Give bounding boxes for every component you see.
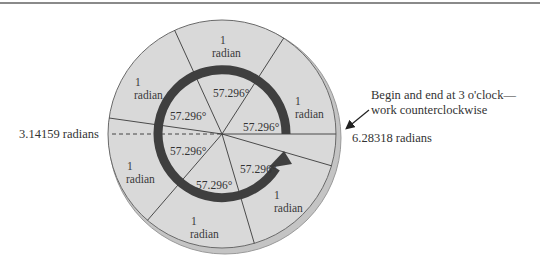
sector-label-number: 1	[135, 76, 141, 88]
degree-label: 57.296°	[213, 87, 250, 99]
note-line-2: work counterclockwise	[371, 103, 488, 117]
degree-label: 57.296°	[196, 179, 233, 191]
note-line-1: Begin and end at 3 o'clock—	[371, 88, 516, 102]
sector-label-unit: radian	[295, 108, 324, 120]
degree-label: 57.296°	[170, 110, 207, 122]
degree-label: 57.296°	[240, 163, 277, 175]
degree-label: 57.296°	[243, 121, 280, 133]
sector-label-unit: radian	[190, 228, 219, 240]
sector-label-number: 1	[274, 189, 280, 201]
sector-label-unit: radian	[134, 89, 163, 101]
radian-diagram: 1 radian 1 radian 1 radian 1 radian 1 ra…	[0, 0, 544, 272]
sector-label-unit: radian	[212, 47, 241, 59]
two-pi-radians-label: 6.28318 radians	[352, 131, 432, 145]
sector-label-unit: radian	[274, 202, 303, 214]
sector-label-number: 1	[127, 160, 133, 172]
sector-label-number: 1	[191, 215, 197, 227]
sector-label-number: 1	[220, 34, 226, 46]
sector-label-number: 1	[295, 95, 301, 107]
degree-label: 57.296°	[170, 145, 207, 157]
pointer-arrow-icon	[347, 110, 369, 128]
pi-radians-label: 3.14159 radians	[19, 127, 99, 141]
sector-label-unit: radian	[126, 173, 155, 185]
